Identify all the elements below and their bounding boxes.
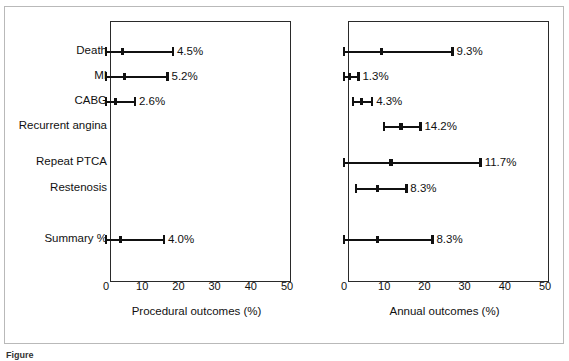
confidence-interval-line (356, 188, 406, 190)
point-estimate-marker (376, 236, 379, 243)
ci-upper-cap (371, 97, 373, 106)
value-label: 9.3% (457, 45, 483, 58)
figure-frame: DeathMICABGRecurrent anginaRepeat PTCARe… (4, 6, 564, 344)
x-axis-title-annual: Annual outcomes (%) (344, 304, 545, 318)
value-label: 8.3% (410, 182, 436, 195)
forest-bar-restenosis: 8.3% (5, 183, 563, 194)
confidence-interval-line (344, 239, 432, 241)
value-label: 11.7% (485, 156, 517, 169)
value-label: 1.3% (362, 70, 388, 83)
forest-bar-repeat-ptca: 11.7% (5, 157, 563, 168)
forest-bar-mi: 1.3% (5, 71, 563, 82)
ci-upper-cap (419, 122, 421, 131)
point-estimate-marker (399, 123, 402, 130)
figure-caption: Figure (6, 350, 126, 360)
ci-upper-cap (357, 72, 359, 81)
ci-lower-cap (343, 158, 345, 167)
ci-upper-cap (479, 158, 481, 167)
x-tick-10: 10 (378, 279, 390, 293)
point-estimate-marker (360, 98, 363, 105)
ci-upper-cap (405, 184, 407, 193)
point-estimate-marker (389, 159, 392, 166)
forest-bar-cabg: 4.3% (5, 96, 563, 107)
x-tick-0: 0 (341, 279, 347, 293)
x-axis-title-procedural: Procedural outcomes (%) (106, 304, 287, 318)
ci-upper-cap (451, 47, 453, 56)
forest-bar-recurrent-angina: 14.2% (5, 121, 563, 132)
ci-lower-cap (355, 184, 357, 193)
ci-lower-cap (343, 72, 345, 81)
value-label: 8.3% (436, 233, 462, 246)
x-tick-40: 40 (499, 279, 511, 293)
point-estimate-marker (348, 73, 351, 80)
ci-upper-cap (431, 235, 433, 244)
value-label: 14.2% (424, 120, 457, 133)
ci-lower-cap (352, 97, 354, 106)
confidence-interval-line (344, 51, 453, 53)
point-estimate-marker (380, 48, 383, 55)
ci-lower-cap (383, 122, 385, 131)
x-tick-50: 50 (539, 279, 551, 293)
value-label: 4.3% (376, 95, 402, 108)
point-estimate-marker (376, 185, 379, 192)
forest-bar-death: 9.3% (5, 46, 563, 57)
forest-bar-summary: 8.3% (5, 234, 563, 245)
x-tick-20: 20 (418, 279, 430, 293)
confidence-interval-line (344, 162, 481, 164)
x-tick-30: 30 (458, 279, 470, 293)
ci-lower-cap (343, 235, 345, 244)
ci-lower-cap (343, 47, 345, 56)
x-axis-ticks-annual: 01020304050 (5, 279, 563, 293)
